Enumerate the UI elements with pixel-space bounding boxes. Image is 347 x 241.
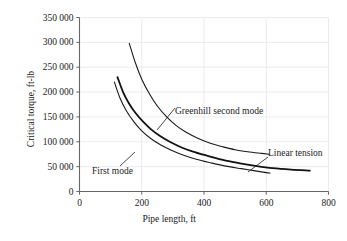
x-tick-label: 200	[135, 198, 149, 208]
y-tick-label: 100 000	[0, 137, 74, 147]
leader-line-first-mode	[120, 152, 135, 166]
y-tick-label: 300 000	[0, 37, 74, 47]
annotation-first-mode: First mode	[92, 166, 133, 177]
y-tick-label: 250 000	[0, 62, 74, 72]
critical-torque-chart: 050 000100 000150 000200 000250 000300 0…	[0, 0, 347, 241]
y-tick-label: 200 000	[0, 87, 74, 97]
x-axis-title: Pipe length, ft	[142, 214, 196, 224]
annotation-leader-lines	[120, 108, 268, 172]
y-axis-title: Critical torque, ft-lb	[26, 49, 36, 169]
x-tick-label: 0	[77, 198, 82, 208]
y-tick-label: 350 000	[0, 13, 74, 23]
annotation-greenhill-second-mode: Greenhill second mode	[175, 106, 263, 117]
leader-line-greenhill-second-mode	[157, 108, 175, 130]
series-line-first-mode	[114, 82, 270, 173]
x-tick-label: 800	[321, 198, 335, 208]
y-tick-label: 0	[0, 187, 74, 197]
y-tick-label: 50 000	[0, 162, 74, 172]
x-tick-label: 400	[197, 198, 211, 208]
x-tick-label: 600	[259, 198, 273, 208]
y-tick-label: 150 000	[0, 112, 74, 122]
annotation-linear-tension: Linear tension	[268, 148, 323, 159]
